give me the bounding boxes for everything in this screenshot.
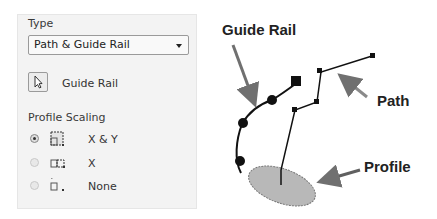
type-dropdown[interactable]: Path & Guide Rail [28,35,189,55]
profile-arrow [322,170,360,181]
scale-none-icon [48,178,70,194]
guide-rail-curve [237,82,298,173]
scale-xy-icon [48,131,70,147]
scaling-x-label: X [88,157,96,170]
scaling-option-x[interactable]: X [30,155,190,171]
radio-xy[interactable] [30,134,39,143]
scaling-option-none[interactable]: None [30,178,190,194]
radio-x[interactable] [30,158,39,167]
sweep-options-panel: Type Path & Guide Rail Guide Rail Profil… [17,14,197,209]
scale-x-icon [48,155,70,171]
profile-callout: Profile [364,158,411,175]
scaling-option-xy[interactable]: X & Y [30,131,190,147]
pick-guide-rail-button[interactable] [28,72,48,92]
scaling-none-label: None [88,180,117,193]
profile-scaling-label: Profile Scaling [28,111,106,124]
radio-none[interactable] [30,181,39,190]
guide-rail-arrow [233,45,254,102]
path-arrow [342,77,367,97]
type-dropdown-value: Path & Guide Rail [34,38,130,51]
guide-rail-label: Guide Rail [62,77,118,90]
scaling-xy-label: X & Y [88,133,118,146]
type-label: Type [28,17,53,30]
path-callout: Path [377,92,410,109]
guide-rail-callout: Guide Rail [222,21,296,38]
sweep-diagram: Guide Rail Path Profile [200,0,437,219]
chevron-down-icon [176,44,182,48]
cursor-arrow-icon [29,73,47,91]
path-curve [281,56,372,185]
